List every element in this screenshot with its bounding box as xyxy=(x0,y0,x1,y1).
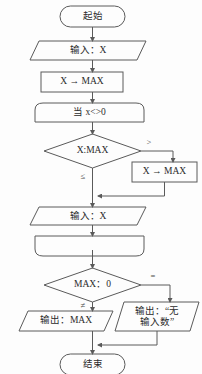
node-assign2[interactable] xyxy=(132,162,197,182)
node-assign1[interactable] xyxy=(41,72,123,92)
node-output1[interactable] xyxy=(19,311,113,331)
connector-output2-to-trunk xyxy=(98,331,157,345)
edge-label-cmp2-equal: = xyxy=(146,272,160,281)
node-input2[interactable] xyxy=(30,207,146,225)
node-end[interactable] xyxy=(60,354,125,374)
node-loop-end[interactable] xyxy=(35,236,144,256)
node-decision-max-zero[interactable] xyxy=(44,268,141,302)
connector-cmp1-right-to-assign2 xyxy=(141,151,173,162)
node-input1[interactable] xyxy=(30,41,146,60)
node-loop-start[interactable] xyxy=(35,103,144,122)
flowchart-canvas: 起始 输入：X X → MAX 当 x<>0 X:MAX X → MAX 输入：… xyxy=(0,0,202,374)
edge-label-cmp1-lessequal: ≤ xyxy=(76,172,90,181)
edge-label-cmp1-greater: > xyxy=(142,138,156,147)
connector-assign2-to-trunk xyxy=(98,182,165,196)
node-output2[interactable] xyxy=(115,302,199,331)
edge-label-cmp2-notequal: ≠ xyxy=(76,301,90,310)
node-start[interactable] xyxy=(60,6,125,27)
connector-cmp2-right-to-output2 xyxy=(141,285,170,302)
node-decision-x-max[interactable] xyxy=(44,134,141,168)
